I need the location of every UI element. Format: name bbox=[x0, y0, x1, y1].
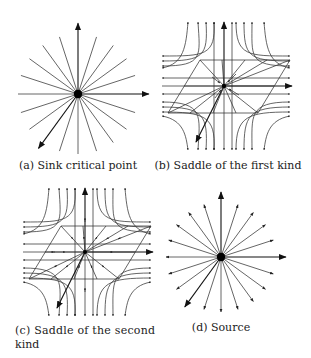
saddle1-plane-ray bbox=[224, 60, 290, 86]
saddle2-plane-ray-arrow bbox=[118, 238, 121, 239]
source-ray bbox=[221, 240, 273, 257]
saddle2-plane-ray-arrow bbox=[102, 266, 104, 267]
saddle2-plane-ray-arrow bbox=[54, 266, 57, 267]
caption-a: (a) Sink critical point bbox=[19, 159, 138, 172]
sink-ray bbox=[39, 94, 78, 148]
saddle1-streamline bbox=[244, 107, 290, 150]
saddle2-critical-point bbox=[83, 250, 87, 254]
saddle2-axis-diagonal bbox=[57, 252, 85, 308]
caption-d: (d) Source bbox=[192, 321, 250, 334]
saddle1-streamline bbox=[252, 22, 290, 66]
saddle1-streamline bbox=[252, 102, 290, 150]
saddle1-streamline bbox=[162, 22, 206, 61]
saddle2-plane-ray-arrow bbox=[79, 266, 80, 267]
sink-ray bbox=[29, 94, 78, 129]
critical-points-figure: (a) Sink critical point (b) Saddle of th… bbox=[0, 0, 311, 358]
saddle2-streamline bbox=[23, 273, 67, 316]
sink-critical-point bbox=[74, 90, 82, 98]
saddle2-streamline bbox=[105, 273, 151, 316]
sink-ray bbox=[21, 94, 78, 113]
saddle1-streamline bbox=[162, 22, 199, 66]
sink-ray bbox=[78, 94, 113, 143]
saddle2-plane-ray-arrow bbox=[66, 266, 68, 267]
saddle1-plane-ray bbox=[224, 86, 236, 113]
saddle1-plane-ray bbox=[200, 60, 224, 86]
saddle1-plane-ray bbox=[224, 60, 267, 86]
sink-ray bbox=[29, 59, 78, 94]
saddle2-plane-ray-arrow bbox=[96, 238, 97, 239]
panel-source bbox=[166, 192, 286, 312]
sink-ray bbox=[78, 94, 127, 129]
saddle2-streamline bbox=[23, 188, 60, 232]
source-ray bbox=[177, 257, 221, 289]
saddle2-plane-ray-arrow bbox=[91, 266, 92, 267]
panel-saddle-first-kind bbox=[162, 22, 292, 150]
saddle1-streamline bbox=[162, 107, 206, 150]
source-ray bbox=[221, 257, 238, 309]
sink-ray bbox=[43, 45, 78, 94]
source-ray bbox=[221, 257, 273, 274]
panel-sink bbox=[18, 23, 149, 154]
sink-ray bbox=[78, 94, 97, 151]
saddle1-streamline bbox=[244, 22, 290, 61]
source-ray bbox=[221, 225, 265, 257]
saddle1-streamline bbox=[162, 116, 188, 150]
saddle2-streamline bbox=[23, 282, 49, 316]
saddle2-plane-ray-arrow bbox=[107, 238, 109, 239]
sink-ray bbox=[59, 94, 78, 151]
sink-ray bbox=[59, 37, 78, 94]
source-ray bbox=[169, 240, 221, 257]
saddle1-streamline bbox=[264, 116, 290, 150]
sink-ray bbox=[78, 45, 113, 94]
source-ray bbox=[221, 257, 253, 301]
sink-ray bbox=[78, 94, 135, 113]
saddle2-streamline bbox=[125, 282, 151, 316]
saddle2-streamline bbox=[105, 188, 151, 227]
source-ray bbox=[177, 225, 221, 257]
panel-saddle-second-kind bbox=[23, 188, 153, 316]
sink-ray bbox=[78, 59, 127, 94]
caption-b: (b) Saddle of the first kind bbox=[155, 159, 302, 172]
source-ray bbox=[221, 257, 265, 289]
sink-ray bbox=[78, 75, 135, 94]
sink-ray bbox=[21, 75, 78, 94]
saddle1-plane-ray bbox=[224, 86, 258, 113]
source-ray bbox=[204, 205, 221, 257]
source-ray bbox=[185, 257, 221, 307]
saddle2-streamline bbox=[23, 188, 67, 227]
source-critical-point bbox=[217, 253, 225, 261]
source-ray bbox=[169, 257, 221, 274]
saddle1-critical-point bbox=[222, 84, 226, 88]
saddle2-streamline bbox=[113, 188, 151, 232]
saddle2-streamline bbox=[113, 268, 151, 316]
source-ray bbox=[189, 213, 221, 257]
source-ray bbox=[221, 213, 253, 257]
caption-c-line2: kind bbox=[15, 338, 39, 351]
saddle1-axis-diagonal bbox=[196, 86, 224, 142]
source-ray bbox=[221, 205, 238, 257]
source-ray bbox=[204, 257, 221, 309]
caption-c-line1: (c) Saddle of the second bbox=[15, 324, 155, 337]
saddle2-plane-ray-arrow bbox=[72, 238, 73, 239]
sink-ray bbox=[78, 37, 97, 94]
